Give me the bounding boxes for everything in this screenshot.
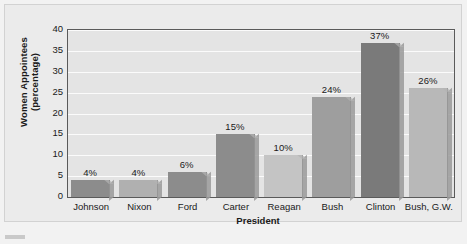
caption-marker bbox=[5, 235, 25, 239]
y-axis-tick-label: 10 bbox=[41, 148, 63, 159]
y-axis-tick-label: 30 bbox=[41, 65, 63, 76]
chart-panel: Women Appointees (percentage) 4035302520… bbox=[4, 4, 462, 222]
bar-value-label: 24% bbox=[322, 84, 341, 95]
bar-shadow bbox=[350, 97, 355, 201]
bar-slot: 37% bbox=[358, 30, 406, 197]
bar-body bbox=[216, 134, 255, 197]
bar[interactable]: 4% bbox=[71, 180, 109, 197]
y-axis-tick-label: 5 bbox=[41, 169, 63, 180]
x-axis-tick-label: Carter bbox=[212, 201, 260, 212]
bar-value-label: 15% bbox=[225, 121, 244, 132]
bar-body bbox=[71, 180, 110, 197]
bar-slot: 10% bbox=[261, 30, 309, 197]
bar-slot: 6% bbox=[165, 30, 213, 197]
y-axis-tick-label: 0 bbox=[41, 190, 63, 201]
y-axis-tick-label: 35 bbox=[41, 44, 63, 55]
bar[interactable]: 26% bbox=[409, 88, 447, 197]
bar[interactable]: 4% bbox=[119, 180, 157, 197]
bar[interactable]: 6% bbox=[168, 172, 206, 197]
bar-slot: 15% bbox=[213, 30, 261, 197]
bar[interactable]: 37% bbox=[361, 43, 399, 197]
bar[interactable]: 15% bbox=[216, 134, 254, 197]
bar-value-label: 10% bbox=[274, 142, 293, 153]
bar-shadow bbox=[302, 155, 307, 201]
y-axis-title-line1: Women Appointees bbox=[18, 12, 29, 152]
bar-shadow bbox=[254, 134, 259, 201]
y-axis-tick-label: 25 bbox=[41, 86, 63, 97]
bar-slot: 26% bbox=[406, 30, 454, 197]
bar-value-label: 6% bbox=[180, 159, 194, 170]
bar-body bbox=[312, 97, 351, 197]
y-axis-tick-label: 20 bbox=[41, 107, 63, 118]
bar-value-label: 4% bbox=[83, 167, 97, 178]
bar[interactable]: 24% bbox=[312, 97, 350, 197]
bar-slot: 24% bbox=[309, 30, 357, 197]
bar-slot: 4% bbox=[116, 30, 164, 197]
figure: Women Appointees (percentage) 4035302520… bbox=[0, 0, 467, 244]
bar-value-label: 37% bbox=[370, 30, 389, 41]
bar-body bbox=[168, 172, 207, 197]
x-axis-tick-label: Clinton bbox=[357, 201, 405, 212]
x-axis-tick-label: Bush, G.W. bbox=[405, 201, 453, 212]
bar-shadow bbox=[206, 172, 211, 201]
bar-slot: 4% bbox=[68, 30, 116, 197]
x-axis-tick-label: Ford bbox=[164, 201, 212, 212]
x-axis-tick-label: Reagan bbox=[260, 201, 308, 212]
x-axis-tick-label: Johnson bbox=[67, 201, 115, 212]
bar-body bbox=[264, 155, 303, 197]
bar-value-label: 26% bbox=[418, 75, 437, 86]
y-axis-tick-label: 15 bbox=[41, 127, 63, 138]
x-axis-title: President bbox=[63, 215, 453, 226]
bar-body bbox=[119, 180, 158, 197]
bar[interactable]: 10% bbox=[264, 155, 302, 197]
x-axis-tick-label: Bush bbox=[308, 201, 356, 212]
plot-area: 4%4%6%15%10%24%37%26% bbox=[67, 29, 455, 198]
y-axis-ticks: 4035302520151050 bbox=[39, 29, 63, 198]
y-axis-title: Women Appointees (percentage) bbox=[18, 12, 40, 152]
bar-value-label: 4% bbox=[132, 167, 146, 178]
y-axis-tick-label: 40 bbox=[41, 23, 63, 34]
bar-body bbox=[409, 88, 448, 197]
bar-body bbox=[361, 43, 400, 197]
bar-shadow bbox=[447, 88, 452, 201]
x-axis-tick-label: Nixon bbox=[115, 201, 163, 212]
bar-shadow bbox=[399, 43, 404, 201]
